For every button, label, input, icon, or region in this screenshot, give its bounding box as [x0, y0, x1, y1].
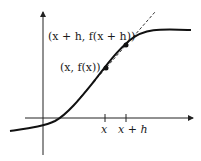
- label-point-x-plus-h: (x + h, f(x + h)): [48, 31, 135, 42]
- function-curve: [10, 29, 191, 131]
- label-point-x: (x, f(x)): [60, 62, 101, 73]
- secant-diagram: (x + h, f(x + h)) (x, f(x)) x x + h: [0, 0, 201, 161]
- point-x: [104, 66, 109, 71]
- diagram-canvas: [0, 0, 201, 161]
- label-tick-x: x: [101, 124, 107, 135]
- label-tick-x-plus-h: x + h: [118, 124, 148, 135]
- point-x-plus-h: [124, 43, 129, 48]
